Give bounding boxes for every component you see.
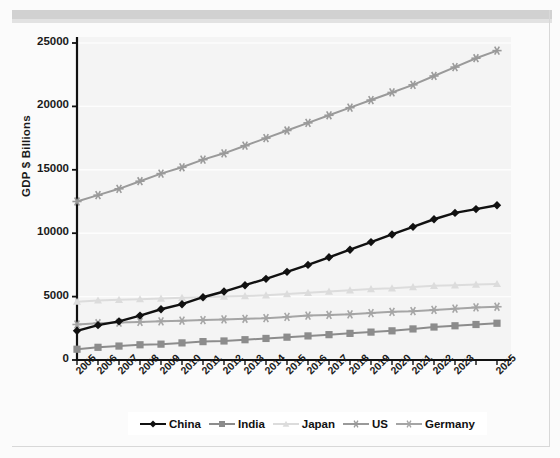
legend-marker-square-icon (209, 418, 235, 430)
scanned-page: GDP $ Billions 0500010000150002000025000… (0, 0, 560, 458)
plot-background (77, 37, 511, 360)
legend-item-japan[interactable]: Japan (269, 418, 339, 430)
data-point-marker (405, 420, 413, 427)
legend-label: US (372, 418, 388, 430)
gdp-line-chart: GDP $ Billions 0500010000150002000025000… (0, 0, 560, 458)
data-point-marker (220, 337, 227, 344)
data-point-marker (388, 327, 395, 334)
data-point-marker (493, 320, 500, 327)
data-point-marker (136, 341, 143, 348)
data-point-marker (304, 332, 311, 339)
data-point-marker (283, 334, 290, 341)
legend-item-germany[interactable]: Germany (392, 418, 479, 430)
data-point-marker (282, 420, 289, 426)
data-point-marker (157, 341, 164, 348)
data-point-marker (241, 336, 248, 343)
legend-marker-diamond-icon (140, 418, 166, 430)
data-point-marker (150, 420, 157, 427)
data-point-marker (409, 325, 416, 332)
y-tick-label: 10000 (17, 225, 69, 237)
y-tick-label: 15000 (17, 162, 69, 174)
data-point-marker (430, 323, 437, 330)
data-point-marker (178, 339, 185, 346)
legend-item-us[interactable]: US (339, 418, 392, 430)
legend-marker-triangle-icon (273, 418, 299, 430)
data-point-marker (472, 321, 479, 328)
legend-label: Japan (302, 418, 335, 430)
legend-label: China (169, 418, 201, 430)
data-point-marker (219, 421, 225, 427)
legend-item-india[interactable]: India (205, 418, 269, 430)
legend-marker-star-icon (343, 418, 369, 430)
chart-legend: ChinaIndiaJapanUSGermany (128, 412, 487, 435)
plot-svg (0, 0, 560, 458)
data-point-marker (346, 330, 353, 337)
legend-label: India (238, 418, 265, 430)
y-tick-label: 25000 (17, 35, 69, 47)
legend-marker-star-icon (396, 418, 422, 430)
y-tick-label: 20000 (17, 98, 69, 110)
data-point-marker (367, 329, 374, 336)
data-point-marker (199, 338, 206, 345)
y-tick-label: 0 (17, 352, 69, 364)
y-tick-label: 5000 (17, 289, 69, 301)
legend-item-china[interactable]: China (136, 418, 205, 430)
data-point-marker (94, 344, 101, 351)
data-point-marker (73, 346, 80, 353)
data-point-marker (115, 342, 122, 349)
data-point-marker (325, 331, 332, 338)
legend-label: Germany (425, 418, 475, 430)
data-point-marker (262, 335, 269, 342)
data-point-marker (352, 420, 360, 427)
data-point-marker (451, 322, 458, 329)
